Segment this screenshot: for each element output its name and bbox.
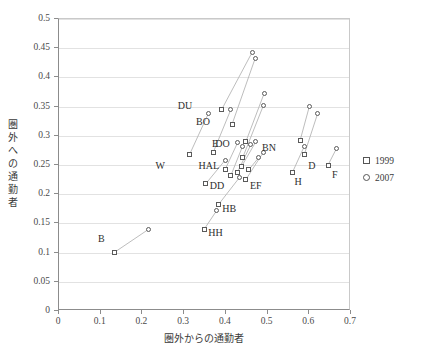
data-point-1999[interactable] <box>203 181 208 186</box>
y-axis-tick-label: 0.5 <box>4 13 50 23</box>
data-point-label: EF <box>250 180 262 191</box>
data-point-label: D <box>308 160 315 171</box>
data-point-2007[interactable] <box>250 50 255 55</box>
data-point-label: HH <box>208 227 222 238</box>
data-point-label: DO <box>215 138 229 149</box>
y-axis-title-char: 勤 <box>6 183 19 196</box>
x-axis-tick-mark <box>141 310 142 314</box>
data-point-1999[interactable] <box>211 150 216 155</box>
x-axis-tick-label: 0.3 <box>168 316 198 326</box>
legend-item-2007[interactable]: 2007 <box>363 169 419 186</box>
data-point-2007[interactable] <box>307 104 312 109</box>
data-point-label: BO <box>196 116 210 127</box>
data-point-label: DD <box>210 180 224 191</box>
y-axis-title-char: へ <box>6 144 19 157</box>
x-axis-tick-label: 0.7 <box>335 316 365 326</box>
y-axis-title-char: 外 <box>6 131 19 144</box>
data-point-1999[interactable] <box>246 167 251 172</box>
data-point-1999[interactable] <box>219 107 224 112</box>
data-point-1999[interactable] <box>187 152 192 157</box>
y-axis-tick-label: 0.05 <box>4 276 50 286</box>
data-point-1999[interactable] <box>243 177 248 182</box>
x-axis-tick-mark <box>308 310 309 314</box>
legend: 1999 2007 <box>363 152 419 186</box>
connector-line <box>243 105 264 158</box>
x-axis-tick-mark <box>225 310 226 314</box>
x-axis-tick-mark <box>183 310 184 314</box>
x-axis-tick-label: 0.2 <box>126 316 156 326</box>
connector-line <box>293 146 305 172</box>
data-point-label: HB <box>222 203 236 214</box>
y-axis-tick-label: 0.15 <box>4 217 50 227</box>
data-point-label: W <box>156 160 165 171</box>
plot-area: DUBOEDOWHALBNDHFDDEFHBHHB <box>58 18 350 310</box>
data-point-label: B <box>98 233 105 244</box>
legend-label-2007: 2007 <box>375 173 394 183</box>
connector-line <box>304 114 317 155</box>
x-axis-tick-label: 0.6 <box>293 316 323 326</box>
y-axis-title: 圏外への通勤者 <box>6 118 19 209</box>
y-axis-tick-label: 0.4 <box>4 71 50 81</box>
data-point-2007[interactable] <box>261 103 266 108</box>
x-axis-tick-label: 0 <box>43 316 73 326</box>
data-point-1999[interactable] <box>228 173 233 178</box>
x-axis-tick-label: 0.1 <box>85 316 115 326</box>
data-point-2007[interactable] <box>223 158 228 163</box>
x-axis-tick-mark <box>58 310 59 314</box>
data-point-label: DU <box>178 100 192 111</box>
legend-label-1999: 1999 <box>375 156 394 166</box>
data-point-1999[interactable] <box>240 155 245 160</box>
data-point-1999[interactable] <box>112 250 117 255</box>
data-point-1999[interactable] <box>235 170 240 175</box>
scatter-chart: 00.050.10.150.20.250.30.350.40.450.5 DUB… <box>0 0 421 356</box>
data-point-2007[interactable] <box>262 91 267 96</box>
legend-item-1999[interactable]: 1999 <box>363 152 419 169</box>
y-axis-tick-label: 0.1 <box>4 247 50 257</box>
data-point-label: BN <box>262 142 276 153</box>
x-axis-tick-mark <box>100 310 101 314</box>
x-axis-tick-mark <box>267 310 268 314</box>
square-marker-icon <box>363 157 370 164</box>
y-axis-tick-label: 0.45 <box>4 42 50 52</box>
data-point-2007[interactable] <box>302 144 307 149</box>
y-axis-title-char: 者 <box>6 196 19 209</box>
y-axis-title-char: 圏 <box>6 118 19 131</box>
y-axis-tick-label: 0 <box>4 305 50 315</box>
data-point-1999[interactable] <box>302 152 307 157</box>
connector-line <box>114 229 149 252</box>
x-axis-tick-mark <box>350 310 351 314</box>
data-point-1999[interactable] <box>239 164 244 169</box>
data-point-2007[interactable] <box>146 227 151 232</box>
x-axis-title: 圏外からの通勤者 <box>58 330 350 345</box>
y-axis-title-char: の <box>6 157 19 170</box>
y-axis-title-char: 通 <box>6 170 19 183</box>
data-point-1999[interactable] <box>290 170 295 175</box>
x-axis-tick-label: 0.5 <box>252 316 282 326</box>
data-point-label: HAL <box>199 160 220 171</box>
y-axis-tick-label: 0.35 <box>4 101 50 111</box>
data-point-1999[interactable] <box>223 167 228 172</box>
data-point-1999[interactable] <box>326 163 331 168</box>
data-point-2007[interactable] <box>240 144 245 149</box>
data-point-label: F <box>332 169 338 180</box>
data-point-2007[interactable] <box>253 56 258 61</box>
data-point-label: H <box>295 176 302 187</box>
connector-line <box>246 93 264 141</box>
x-axis-tick-label: 0.4 <box>210 316 240 326</box>
circle-marker-icon <box>363 174 370 181</box>
data-point-1999[interactable] <box>230 122 235 127</box>
data-point-1999[interactable] <box>298 138 303 143</box>
connector-line <box>300 107 309 141</box>
data-point-1999[interactable] <box>216 202 221 207</box>
data-point-1999[interactable] <box>202 227 207 232</box>
